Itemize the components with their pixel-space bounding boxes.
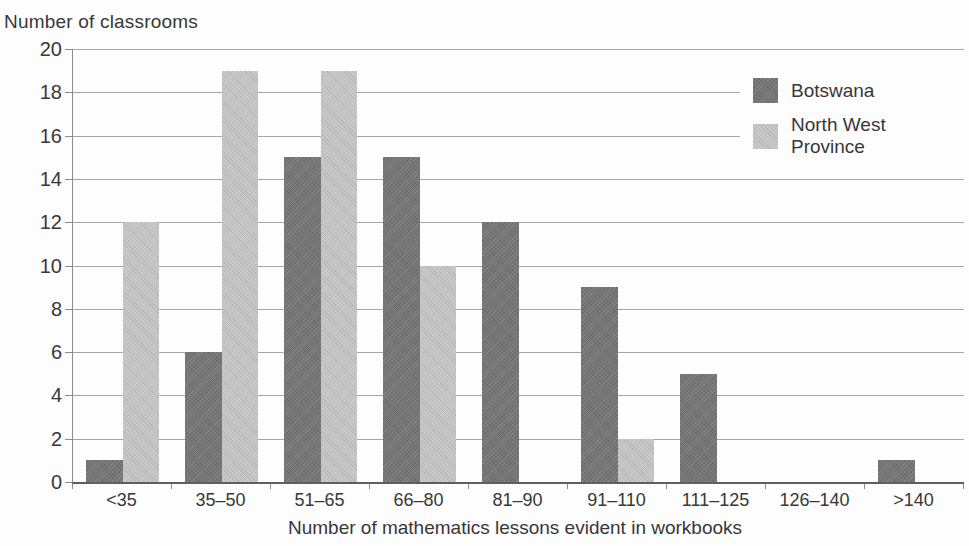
y-tick-mark [65, 49, 72, 50]
y-tick-label-20: 20 [20, 37, 62, 61]
x-tick-mark [468, 484, 469, 489]
x-category-label-2: 51–65 [294, 490, 344, 511]
x-category-label-8: >140 [893, 490, 934, 511]
x-tick-mark [963, 484, 964, 489]
x-category-label-0: <35 [106, 490, 137, 511]
gridline-y10 [73, 266, 964, 267]
y-tick-label-18: 18 [20, 80, 62, 104]
x-tick-mark [864, 484, 865, 489]
y-tick-label-12: 12 [20, 210, 62, 234]
y-tick-mark [65, 266, 72, 267]
y-tick-mark [65, 482, 72, 483]
y-tick-label-14: 14 [20, 167, 62, 191]
bar-north-west-province-0 [123, 222, 160, 482]
bar-botswana-8 [878, 460, 915, 482]
y-tick-label-10: 10 [20, 254, 62, 278]
x-tick-mark [567, 484, 568, 489]
bar-botswana-4 [482, 222, 519, 482]
x-tick-mark [270, 484, 271, 489]
bar-north-west-province-3 [420, 266, 457, 483]
y-tick-label-4: 4 [20, 383, 62, 407]
bar-botswana-5 [581, 287, 618, 482]
north-west-province-swatch-icon [753, 124, 778, 149]
legend-item-north-west-province: North West Province [753, 114, 963, 158]
gridline-y14 [73, 179, 964, 180]
y-tick-mark [65, 395, 72, 396]
x-tick-mark [171, 484, 172, 489]
bar-botswana-1 [185, 352, 222, 482]
y-tick-label-6: 6 [20, 340, 62, 364]
y-tick-label-8: 8 [20, 297, 62, 321]
x-category-label-4: 81–90 [492, 490, 542, 511]
bar-botswana-6 [680, 374, 717, 482]
legend: Botswana North West Province [740, 73, 967, 163]
y-tick-mark [65, 136, 72, 137]
x-tick-mark [666, 484, 667, 489]
y-axis-title: Number of classrooms [4, 11, 198, 33]
bar-botswana-2 [284, 157, 321, 482]
bar-botswana-3 [383, 157, 420, 482]
y-tick-mark [65, 222, 72, 223]
bar-chart-figure: Number of classrooms Number of mathemati… [0, 0, 969, 546]
gridline-y8 [73, 309, 964, 310]
x-axis-title: Number of mathematics lessons evident in… [288, 517, 742, 539]
y-tick-mark [65, 92, 72, 93]
gridline-y12 [73, 222, 964, 223]
y-tick-mark [65, 309, 72, 310]
x-category-label-5: 91–110 [587, 490, 646, 511]
bar-botswana-0 [86, 460, 123, 482]
legend-item-label: Botswana [791, 80, 874, 102]
bar-north-west-province-1 [222, 71, 259, 482]
x-tick-mark [765, 484, 766, 489]
y-tick-label-2: 2 [20, 427, 62, 451]
y-tick-mark [65, 439, 72, 440]
gridline-y20 [73, 49, 964, 50]
bar-north-west-province-2 [321, 71, 358, 482]
botswana-swatch-icon [753, 78, 778, 103]
legend-item-botswana: Botswana [753, 78, 963, 103]
x-category-label-3: 66–80 [393, 490, 443, 511]
x-tick-mark [72, 484, 73, 489]
y-tick-label-0: 0 [20, 470, 62, 494]
y-tick-label-16: 16 [20, 124, 62, 148]
y-tick-mark [65, 352, 72, 353]
x-category-label-6: 111–125 [682, 490, 749, 511]
bar-north-west-province-5 [618, 439, 655, 482]
y-tick-mark [65, 179, 72, 180]
x-tick-mark [369, 484, 370, 489]
x-category-label-7: 126–140 [779, 490, 849, 511]
legend-item-label: North West Province [791, 114, 963, 158]
x-category-label-1: 35–50 [195, 490, 245, 511]
